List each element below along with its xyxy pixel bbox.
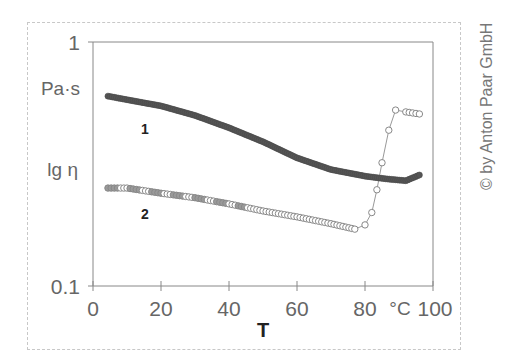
x-tick-label: 60 bbox=[285, 297, 308, 320]
series-2-marker bbox=[352, 226, 358, 232]
x-unit-label: °C bbox=[389, 298, 410, 319]
series-2-marker bbox=[369, 209, 375, 215]
series-1-curve bbox=[105, 93, 422, 184]
x-tick-label: 40 bbox=[217, 297, 240, 320]
series-2-marker bbox=[416, 111, 422, 117]
x-tick-label: 0 bbox=[87, 297, 99, 320]
series-2-curve bbox=[105, 107, 423, 232]
series-2-label: 2 bbox=[141, 206, 149, 222]
series-1-label: 1 bbox=[141, 121, 149, 137]
series-2-marker bbox=[392, 107, 398, 113]
y-axis-title: lg η bbox=[47, 159, 78, 180]
y-tick-label-bottom: 0.1 bbox=[51, 275, 80, 298]
y-tick-label-top: 1 bbox=[68, 31, 80, 54]
series-2-marker bbox=[379, 160, 385, 166]
x-axis-title: T bbox=[257, 319, 269, 341]
viscosity-chart: 1 Pa·s lg η 0.1 020406080100 °C T 1 2 © … bbox=[0, 0, 513, 363]
x-tick-label: 100 bbox=[417, 297, 452, 320]
x-tick-label: 80 bbox=[353, 297, 376, 320]
series-2-marker bbox=[362, 222, 368, 228]
series-1-marker bbox=[416, 172, 422, 178]
y-unit-label: Pa·s bbox=[41, 78, 80, 99]
series-2-marker bbox=[374, 187, 380, 193]
copyright-text: © by Anton Paar GmbH bbox=[478, 23, 495, 190]
x-tick-label: 20 bbox=[149, 297, 172, 320]
series-2-marker bbox=[386, 127, 392, 133]
